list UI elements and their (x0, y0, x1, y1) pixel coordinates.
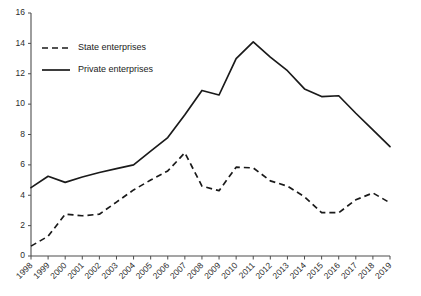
x-tick-label: 2016 (322, 260, 343, 281)
x-tick-label: 2011 (237, 260, 257, 280)
x-tick-label: 2017 (339, 260, 360, 281)
legend-label-state-enterprises: State enterprises (78, 42, 147, 52)
y-tick-label: 8 (20, 129, 25, 139)
x-axis: 1998199920002001200220032004200520062007… (14, 256, 394, 281)
line-chart: 0246810121416 19981999200020012002200320… (0, 0, 421, 296)
y-tick-label: 16 (16, 7, 26, 17)
x-tick-label: 2013 (270, 260, 291, 281)
x-tick-label: 2004 (117, 260, 138, 281)
x-tick-label: 2008 (185, 260, 206, 281)
x-tick-label: 2000 (48, 260, 69, 281)
x-tick-label: 2014 (287, 260, 308, 281)
x-tick-label: 1999 (31, 260, 52, 281)
y-tick-label: 4 (20, 190, 25, 200)
legend-label-private-enterprises: Private enterprises (78, 64, 154, 74)
y-axis: 0246810121416 (16, 7, 31, 260)
x-tick-label: 1998 (14, 260, 35, 281)
x-tick-label: 2019 (373, 260, 394, 281)
series-line-state-enterprises (31, 153, 390, 246)
x-tick-label: 2005 (134, 260, 155, 281)
x-tick-label: 2001 (65, 260, 86, 281)
x-tick-label: 2010 (219, 260, 240, 281)
x-tick-label: 2007 (168, 260, 189, 281)
chart-canvas: 0246810121416 19981999200020012002200320… (0, 0, 421, 296)
x-tick-label: 2003 (99, 260, 120, 281)
x-tick-label: 2012 (253, 260, 274, 281)
y-tick-label: 10 (16, 98, 26, 108)
x-tick-label: 2002 (82, 260, 103, 281)
x-tick-label: 2009 (202, 260, 223, 281)
y-tick-label: 2 (20, 220, 25, 230)
y-tick-label: 6 (20, 159, 25, 169)
y-tick-label: 12 (16, 68, 26, 78)
chart-legend: State enterprisesPrivate enterprises (42, 42, 154, 74)
x-tick-label: 2006 (151, 260, 172, 281)
x-tick-label: 2018 (356, 260, 377, 281)
y-tick-label: 14 (16, 38, 26, 48)
y-tick-label: 0 (20, 250, 25, 260)
x-tick-label: 2015 (305, 260, 326, 281)
